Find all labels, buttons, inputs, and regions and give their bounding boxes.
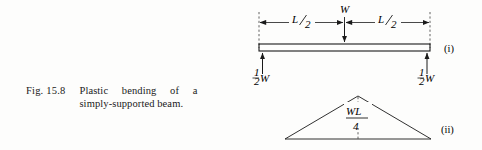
figure-number: Fig. 15.8 xyxy=(26,84,65,97)
load-label-w: W xyxy=(340,3,350,15)
dimension-label-right: L 2 xyxy=(375,12,401,30)
figure-caption: Fig. 15.8 Plastic bending of a simply-su… xyxy=(26,84,216,110)
reaction-label-right: 1 2 W xyxy=(418,66,436,87)
beam-diagram: L 2 L 2 W xyxy=(253,3,455,87)
dimension-label-left: L 2 xyxy=(289,12,315,30)
beam-body xyxy=(259,44,430,51)
figure-caption-text: Plastic bending of a simply-supported be… xyxy=(79,84,197,110)
figure-diagrams: L 2 L 2 W xyxy=(241,0,482,150)
reaction-label-left: 1 2 W xyxy=(253,66,271,87)
part-label-ii: (ii) xyxy=(441,124,454,136)
reaction-right-symbol: W xyxy=(425,72,435,84)
figure-svg: L 2 L 2 W xyxy=(241,0,482,150)
dimension-left-numerator: L xyxy=(291,13,298,25)
moment-peak-label: WL 4 xyxy=(344,102,372,132)
dimension-right-numerator: L xyxy=(377,13,384,25)
figure-page: Fig. 15.8 Plastic bending of a simply-su… xyxy=(0,0,482,150)
reaction-left-symbol: W xyxy=(260,72,270,84)
dimension-left-denominator: 2 xyxy=(305,18,311,30)
moment-peak-denominator: 4 xyxy=(353,120,359,132)
moment-peak-numerator: WL xyxy=(346,105,361,117)
part-label-i: (i) xyxy=(444,43,454,55)
moment-diagram: WL 4 (ii) xyxy=(285,96,454,139)
dimension-right-denominator: 2 xyxy=(391,18,397,30)
